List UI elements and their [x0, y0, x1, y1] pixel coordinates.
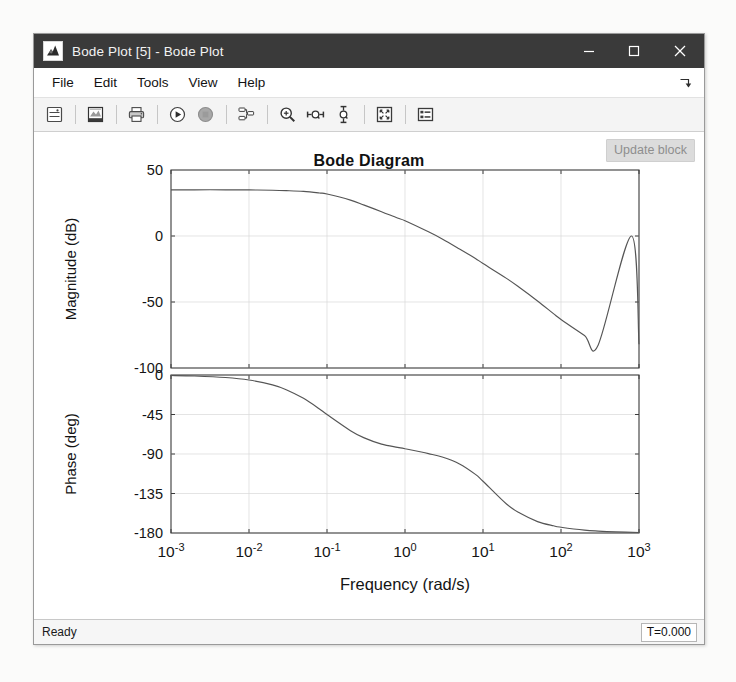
- frequency-tick-labels: 10-310-210-1100101102103: [157, 541, 650, 560]
- svg-text:103: 103: [627, 541, 650, 560]
- svg-text:-45: -45: [142, 407, 163, 423]
- svg-text:102: 102: [549, 541, 572, 560]
- bode-plot-window: Bode Plot [5] - Bode Plot File Edit Tool…: [33, 33, 705, 645]
- window-title: Bode Plot [5] - Bode Plot: [72, 44, 224, 59]
- toolbar-separator: [267, 105, 268, 124]
- title-bar: Bode Plot [5] - Bode Plot: [34, 34, 704, 68]
- legend-icon[interactable]: [412, 102, 439, 127]
- maximize-icon[interactable]: [611, 34, 656, 68]
- svg-text:-180: -180: [134, 525, 163, 541]
- window-controls: [566, 34, 704, 68]
- linearization-hierarchy-icon[interactable]: [233, 102, 260, 127]
- toolbar-separator: [157, 105, 158, 124]
- status-bar: Ready T=0.000: [34, 619, 704, 644]
- print-preview-icon[interactable]: [41, 102, 68, 127]
- phase-axis-label: Phase (deg): [62, 413, 79, 495]
- stop-icon[interactable]: [192, 102, 219, 127]
- toolbar-separator: [75, 105, 76, 124]
- zoom-x-icon[interactable]: [302, 102, 329, 127]
- magnitude-axis-label: Magnitude (dB): [62, 218, 79, 321]
- matlab-membrane-icon: [43, 41, 63, 61]
- toolbar: [34, 98, 704, 132]
- magnitude-subplot: 500-50-100 Magnitude (dB): [62, 162, 639, 376]
- menu-item-view[interactable]: View: [179, 75, 228, 90]
- toolbar-separator: [116, 105, 117, 124]
- toolbar-separator: [364, 105, 365, 124]
- phase-ytick-labels: 0-45-90-135-180: [134, 367, 163, 541]
- svg-text:10-1: 10-1: [313, 541, 340, 560]
- svg-text:0: 0: [155, 367, 163, 383]
- simulation-time-indicator: T=0.000: [641, 623, 697, 642]
- svg-text:10-2: 10-2: [235, 541, 262, 560]
- status-message: Ready: [42, 625, 77, 639]
- menu-item-help[interactable]: Help: [228, 75, 276, 90]
- undock-arrow-icon[interactable]: [678, 76, 692, 90]
- phase-subplot: 0-45-90-135-180 Phase (deg): [62, 367, 639, 541]
- svg-text:-135: -135: [134, 486, 163, 502]
- run-icon[interactable]: [164, 102, 191, 127]
- fit-to-view-icon[interactable]: [371, 102, 398, 127]
- svg-text:101: 101: [471, 541, 494, 560]
- magnitude-ytick-labels: 500-50-100: [134, 162, 163, 376]
- svg-text:-90: -90: [142, 446, 163, 462]
- svg-text:0: 0: [155, 228, 163, 244]
- bode-plot-svg[interactable]: 500-50-100 Magnitude (dB) 0-45-90-135-18…: [34, 132, 704, 619]
- zoom-in-icon[interactable]: [274, 102, 301, 127]
- svg-text:100: 100: [393, 541, 416, 560]
- frequency-axis-label: Frequency (rad/s): [340, 575, 470, 593]
- print-icon[interactable]: [123, 102, 150, 127]
- figure-canvas: Update block Bode Diagram 500-50-100 Mag…: [34, 132, 704, 619]
- svg-text:10-3: 10-3: [157, 541, 184, 560]
- menu-item-tools[interactable]: Tools: [127, 75, 179, 90]
- zoom-y-icon[interactable]: [330, 102, 357, 127]
- toolbar-separator: [226, 105, 227, 124]
- toolbar-separator: [405, 105, 406, 124]
- close-icon[interactable]: [656, 34, 704, 68]
- menu-bar: File Edit Tools View Help: [34, 68, 704, 98]
- menu-item-file[interactable]: File: [42, 75, 84, 90]
- svg-text:-50: -50: [142, 294, 163, 310]
- minimize-icon[interactable]: [566, 34, 611, 68]
- svg-text:50: 50: [147, 162, 163, 178]
- menu-item-edit[interactable]: Edit: [84, 75, 127, 90]
- image-export-icon[interactable]: [82, 102, 109, 127]
